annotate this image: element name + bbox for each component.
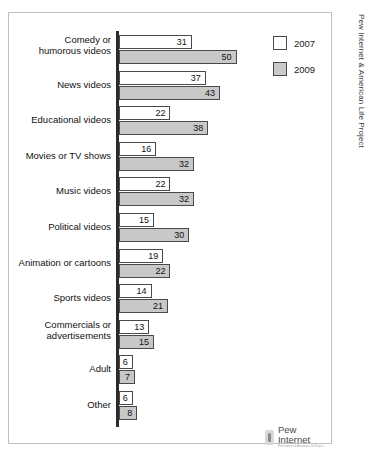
bar-value-label: 6 bbox=[123, 393, 132, 403]
bar-row: Political videos1530 bbox=[9, 213, 333, 247]
bar-row: Commercials oradvertisements1315 bbox=[9, 320, 333, 354]
bar-pair: 68 bbox=[119, 391, 138, 420]
category-label: Educational videos bbox=[11, 114, 111, 125]
category-label: Sports videos bbox=[11, 292, 111, 303]
bar-2009: 50 bbox=[119, 50, 237, 64]
bar-2009: 22 bbox=[119, 264, 171, 278]
bar-value-label: 32 bbox=[179, 159, 193, 169]
bar-value-label: 14 bbox=[137, 286, 151, 296]
bar-pair: 1530 bbox=[119, 213, 190, 242]
bar-pair: 1315 bbox=[119, 320, 154, 349]
category-label: Music videos bbox=[11, 185, 111, 196]
bar-pair: 2232 bbox=[119, 177, 195, 206]
bar-2009: 32 bbox=[119, 192, 195, 206]
category-label: Comedy orhumorous videos bbox=[11, 34, 111, 56]
pew-internet-logo: Pew Internet Pew Internet & American Lif… bbox=[265, 425, 331, 449]
bar-2007: 6 bbox=[119, 355, 133, 369]
bar-value-label: 22 bbox=[155, 108, 169, 118]
bar-value-label: 13 bbox=[134, 322, 148, 332]
bar-2007: 15 bbox=[119, 213, 154, 227]
bar-value-label: 19 bbox=[148, 251, 162, 261]
bar-pair: 3743 bbox=[119, 71, 220, 100]
bar-row: Educational videos2238 bbox=[9, 106, 333, 140]
category-label: Political videos bbox=[11, 221, 111, 232]
bar-2007: 6 bbox=[119, 391, 133, 405]
category-label: Animation or cartoons bbox=[11, 257, 111, 268]
bar-2007: 13 bbox=[119, 320, 150, 334]
bar-pair: 1922 bbox=[119, 249, 171, 278]
bar-row: Sports videos1421 bbox=[9, 284, 333, 318]
bar-value-label: 43 bbox=[205, 88, 219, 98]
bar-2009: 15 bbox=[119, 335, 154, 349]
bar-2007: 22 bbox=[119, 106, 171, 120]
bar-2009: 43 bbox=[119, 86, 220, 100]
bar-value-label: 50 bbox=[221, 52, 235, 62]
bar-2009: 38 bbox=[119, 121, 209, 135]
pew-logo-text: Pew Internet Pew Internet & American Lif… bbox=[278, 425, 331, 449]
bar-value-label: 31 bbox=[177, 37, 191, 47]
bar-2009: 32 bbox=[119, 157, 195, 171]
bar-value-label: 7 bbox=[125, 372, 134, 382]
bar-value-label: 22 bbox=[155, 266, 169, 276]
bar-value-label: 6 bbox=[123, 357, 132, 367]
bar-2007: 22 bbox=[119, 177, 171, 191]
bar-2009: 30 bbox=[119, 228, 190, 242]
bar-value-label: 37 bbox=[191, 73, 205, 83]
bar-pair: 67 bbox=[119, 355, 136, 384]
bar-row: Movies or TV shows1632 bbox=[9, 142, 333, 176]
bar-value-label: 38 bbox=[193, 123, 207, 133]
category-label: Commercials oradvertisements bbox=[11, 319, 111, 341]
category-label: Other bbox=[11, 399, 111, 410]
bar-pair: 3150 bbox=[119, 35, 237, 64]
bar-row: Other68 bbox=[9, 391, 333, 425]
chart-frame: 2007 2009 Comedy orhumorous videos3150Ne… bbox=[8, 12, 332, 444]
category-label: Movies or TV shows bbox=[11, 150, 111, 161]
bar-2009: 21 bbox=[119, 299, 169, 313]
pew-logo-icon bbox=[265, 430, 274, 445]
bar-value-label: 30 bbox=[174, 230, 188, 240]
category-label: News videos bbox=[11, 79, 111, 90]
bar-row: Adult67 bbox=[9, 355, 333, 389]
bar-row: Comedy orhumorous videos3150 bbox=[9, 35, 333, 69]
pew-tagline: Pew Internet & American Life Project bbox=[278, 445, 331, 449]
bar-pair: 2238 bbox=[119, 106, 209, 135]
bar-2007: 19 bbox=[119, 249, 164, 263]
bar-value-label: 21 bbox=[153, 301, 167, 311]
bar-2007: 16 bbox=[119, 142, 157, 156]
vertical-credit-text: Pew Internet & American Life Project bbox=[166, 14, 366, 28]
bar-2007: 37 bbox=[119, 71, 206, 85]
bar-pair: 1421 bbox=[119, 284, 169, 313]
bar-pair: 1632 bbox=[119, 142, 195, 171]
bar-2009: 7 bbox=[119, 370, 136, 384]
bar-2009: 8 bbox=[119, 406, 138, 420]
plot-area: Comedy orhumorous videos3150News videos3… bbox=[9, 31, 333, 431]
bar-row: Animation or cartoons1922 bbox=[9, 249, 333, 283]
bar-value-label: 32 bbox=[179, 194, 193, 204]
bar-value-label: 8 bbox=[127, 408, 136, 418]
category-label: Adult bbox=[11, 363, 111, 374]
bar-row: News videos3743 bbox=[9, 71, 333, 105]
bar-value-label: 15 bbox=[139, 337, 153, 347]
bar-row: Music videos2232 bbox=[9, 177, 333, 211]
bar-2007: 31 bbox=[119, 35, 192, 49]
bar-2007: 14 bbox=[119, 284, 152, 298]
pew-wordmark: Pew Internet bbox=[278, 425, 331, 445]
bar-value-label: 15 bbox=[139, 215, 153, 225]
bar-value-label: 16 bbox=[141, 144, 155, 154]
bar-value-label: 22 bbox=[155, 179, 169, 189]
